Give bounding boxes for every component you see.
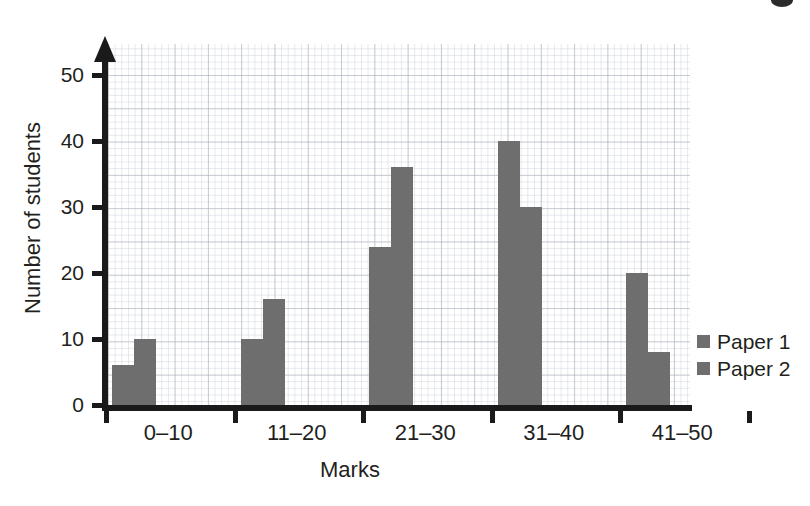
y-tick-20: 20 (92, 271, 104, 276)
y-axis-line (102, 58, 108, 410)
y-tick-10: 10 (92, 337, 104, 342)
legend-item-paper-2[interactable]: Paper 2 (697, 355, 791, 382)
x-category-label-41–50: 41–50 (618, 420, 747, 446)
x-category-label-31–40: 31–40 (490, 420, 619, 446)
y-tick-label-0: 0 (72, 393, 84, 417)
y-tick-label-30: 30 (61, 195, 84, 219)
bar-paper-2-41–50 (648, 352, 670, 405)
y-tick-label-50: 50 (61, 63, 84, 87)
bar-paper-2-21–30 (391, 167, 413, 405)
bar-paper-2-0–10 (134, 339, 156, 405)
chart-page: 01020304050 0–1011–2021–3031–4041–50 Num… (0, 0, 810, 506)
legend-label: Paper 2 (717, 357, 791, 381)
bar-paper-1-41–50 (626, 273, 648, 405)
y-tick-label-20: 20 (61, 261, 84, 285)
legend-item-paper-1[interactable]: Paper 1 (697, 328, 791, 355)
y-axis-title: Number of students (20, 88, 46, 348)
y-tick-label-40: 40 (61, 129, 84, 153)
x-tick-5 (747, 411, 752, 423)
legend-swatch-icon (697, 335, 710, 348)
bar-paper-1-11–20 (241, 339, 263, 405)
bar-paper-1-31–40 (498, 141, 520, 405)
x-axis-title: Marks (0, 457, 700, 483)
y-tick-40: 40 (92, 139, 104, 144)
x-axis-line (102, 405, 692, 411)
bar-paper-1-21–30 (369, 247, 391, 405)
chart-legend: Paper 1Paper 2 (697, 328, 791, 382)
bar-paper-2-11–20 (263, 299, 285, 405)
x-category-label-21–30: 21–30 (361, 420, 490, 446)
bar-paper-1-0–10 (112, 365, 134, 405)
y-tick-50: 50 (92, 73, 104, 78)
x-category-label-0–10: 0–10 (104, 420, 233, 446)
legend-label: Paper 1 (717, 330, 791, 354)
bar-paper-2-31–40 (520, 207, 542, 405)
y-tick-30: 30 (92, 205, 104, 210)
legend-swatch-icon (697, 362, 710, 375)
y-axis-arrow-icon (94, 36, 116, 62)
y-tick-0: 0 (92, 403, 104, 408)
y-tick-label-10: 10 (61, 327, 84, 351)
x-category-label-11–20: 11–20 (233, 420, 362, 446)
